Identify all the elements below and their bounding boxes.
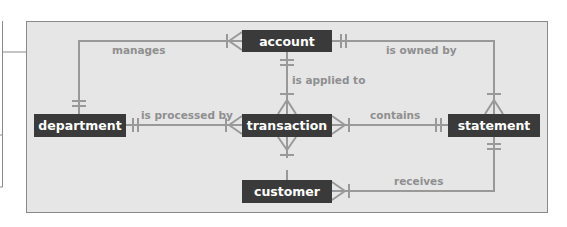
relationship-label-is-applied-to: is applied to xyxy=(292,74,365,86)
relationship-label-contains: contains xyxy=(370,109,420,121)
entity-account[interactable]: account xyxy=(242,30,332,52)
relationship-label-receives: receives xyxy=(394,175,443,187)
entity-label: transaction xyxy=(247,118,328,133)
left-connector-lines xyxy=(0,21,26,187)
entity-label: customer xyxy=(254,184,321,199)
relationship-label-manages: manages xyxy=(112,44,165,56)
entity-customer[interactable]: customer xyxy=(242,180,332,203)
entity-label: statement xyxy=(458,118,531,133)
entity-label: account xyxy=(259,34,315,49)
entity-statement[interactable]: statement xyxy=(448,114,540,137)
relationship-label-is-processed-by: is processed by xyxy=(141,109,233,121)
er-diagram: manages is owned by is applied to is pro… xyxy=(0,0,567,227)
relationship-label-is-owned-by: is owned by xyxy=(386,44,457,56)
entity-department[interactable]: department xyxy=(34,114,126,137)
entity-label: department xyxy=(38,118,121,133)
entity-transaction[interactable]: transaction xyxy=(242,114,332,137)
